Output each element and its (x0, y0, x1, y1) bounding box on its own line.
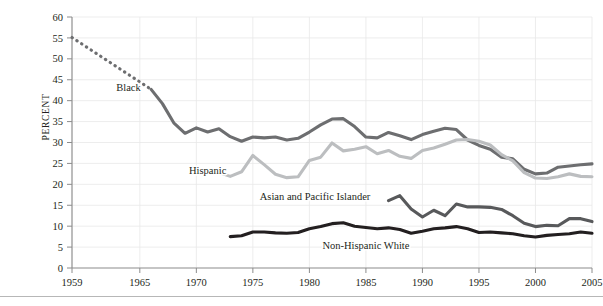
y-tick-label: 0 (58, 263, 63, 274)
y-tick-label: 20 (53, 179, 64, 190)
x-tick-label: 1975 (242, 277, 263, 288)
line-chart: 0510152025303540455055601959196519701975… (0, 0, 603, 306)
y-tick-label: 50 (53, 53, 64, 64)
x-tick-label: 2005 (582, 277, 603, 288)
y-tick-label: 45 (53, 74, 64, 85)
x-tick-label: 1995 (468, 277, 489, 288)
x-tick-label: 1990 (412, 277, 433, 288)
x-tick-label: 1980 (299, 277, 320, 288)
x-tick-label: 2000 (525, 277, 546, 288)
y-tick-label: 15 (53, 200, 64, 211)
footer-divider (0, 296, 603, 297)
chart-container: PERCENT 05101520253035404550556019591965… (0, 0, 603, 306)
series-label-asian-and-pacific-islander: Asian and Pacific Islander (260, 191, 371, 202)
y-tick-label: 35 (53, 116, 64, 127)
y-tick-label: 25 (53, 158, 64, 169)
y-tick-label: 40 (53, 95, 64, 106)
y-tick-label: 5 (58, 242, 63, 253)
series-label-black: Black (116, 82, 141, 93)
x-tick-label: 1965 (129, 277, 150, 288)
y-tick-label: 10 (53, 221, 64, 232)
x-tick-label: 1959 (62, 277, 83, 288)
series-line-black (151, 89, 592, 174)
series-label-non-hispanic-white: Non-Hispanic White (322, 240, 409, 251)
x-tick-label: 1985 (355, 277, 376, 288)
x-tick-label: 1970 (186, 277, 207, 288)
y-tick-label: 60 (53, 12, 64, 23)
series-line-asian-and-pacific-islander (389, 196, 592, 227)
series-label-hispanic: Hispanic (189, 165, 227, 176)
y-tick-label: 30 (53, 137, 64, 148)
y-tick-label: 55 (53, 33, 64, 44)
